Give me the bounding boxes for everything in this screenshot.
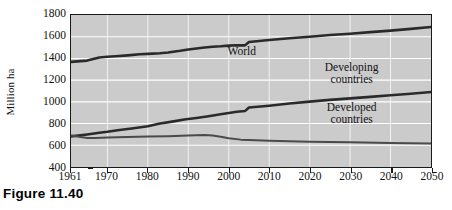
x-tick-mark [351,168,352,173]
x-tick-mark [229,168,230,173]
x-tick-mark [188,168,189,173]
y-tick-label: 1800 [26,8,66,20]
chart-figure: Million ha 40060080010001200140016001800… [0,0,452,182]
x-tick-mark [147,168,148,173]
y-axis-title-text: Million ha [4,68,16,115]
y-tick-mark [88,168,93,169]
y-axis-ticks: 40060080010001200140016001800 [22,0,66,182]
figure-caption: Figure 11.40 [3,186,83,201]
plot-area: WorldDevelopingcountriesDevelopedcountri… [70,14,432,168]
figure-container: Million ha 40060080010001200140016001800… [0,0,452,210]
series-annotations: WorldDevelopingcountriesDevelopedcountri… [71,15,431,167]
series-label-world: World [207,45,277,58]
y-tick-label: 800 [26,118,66,130]
x-tick-mark [70,168,71,173]
x-tick-label: 2050 [410,170,452,182]
x-tick-mark [310,168,311,173]
y-axis-title: Million ha [2,38,18,146]
x-tick-mark [107,168,108,173]
x-tick-mark [391,168,392,173]
y-tick-label: 600 [26,140,66,152]
x-tick-mark [269,168,270,173]
series-label-developed: Developedcountries [317,101,387,126]
y-tick-label: 1200 [26,74,66,86]
x-tick-mark [432,168,433,173]
x-axis-ticks: 1961197019801990200020102020203020402050 [0,170,452,184]
y-tick-label: 1000 [26,96,66,108]
y-tick-label: 1600 [26,30,66,42]
series-label-developing: Developingcountries [317,61,387,86]
y-tick-label: 1400 [26,52,66,64]
